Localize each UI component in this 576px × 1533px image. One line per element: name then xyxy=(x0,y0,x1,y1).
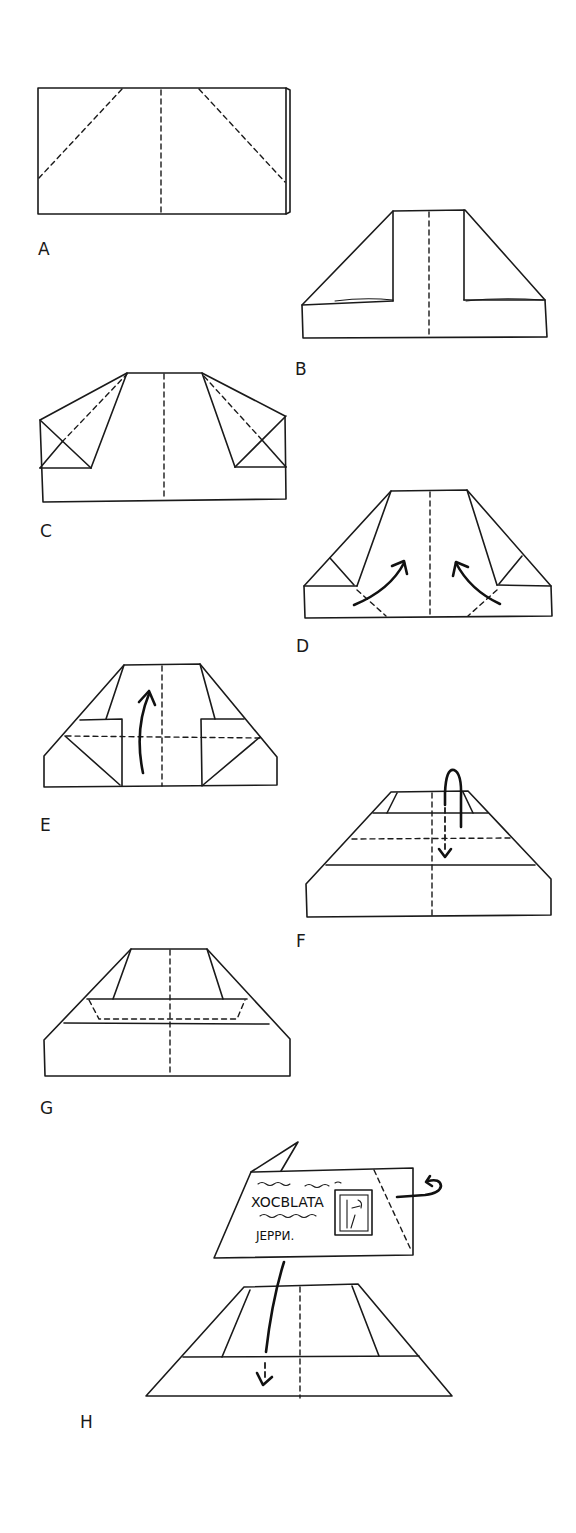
step-h-postcard-figure: XOCBLATA ЈЕРРИ. xyxy=(214,1142,441,1258)
step-label-e: E xyxy=(40,815,51,835)
fold-arrow-right-icon xyxy=(453,562,500,604)
step-label-h: H xyxy=(80,1412,93,1432)
step-label-c: C xyxy=(40,521,52,541)
step-c-figure xyxy=(40,373,286,502)
step-label-b: B xyxy=(295,359,307,379)
step-h-base-figure xyxy=(146,1262,452,1398)
step-label-f: F xyxy=(296,931,306,951)
postcard-text-line1: XOCBLATA xyxy=(251,1194,324,1210)
step-d-figure xyxy=(304,490,552,618)
step-a-figure xyxy=(38,88,290,214)
step-b-figure xyxy=(302,210,547,338)
step-label-d: D xyxy=(296,636,309,656)
step-g-figure xyxy=(44,949,290,1076)
fold-arrow-up-icon xyxy=(139,691,155,773)
step-e-figure xyxy=(44,664,277,787)
step-label-g: G xyxy=(40,1098,53,1118)
fold-arrow-left-icon xyxy=(354,561,407,605)
step-f-figure xyxy=(306,770,551,917)
turn-over-arrow-icon xyxy=(397,1176,441,1197)
stamp-icon xyxy=(335,1190,372,1235)
step-label-a: A xyxy=(38,239,50,259)
postcard-text-line2: ЈЕРРИ. xyxy=(255,1229,294,1243)
origami-diagram: XOCBLATA ЈЕРРИ. xyxy=(0,0,576,1533)
insert-arrow-icon xyxy=(257,1262,284,1385)
